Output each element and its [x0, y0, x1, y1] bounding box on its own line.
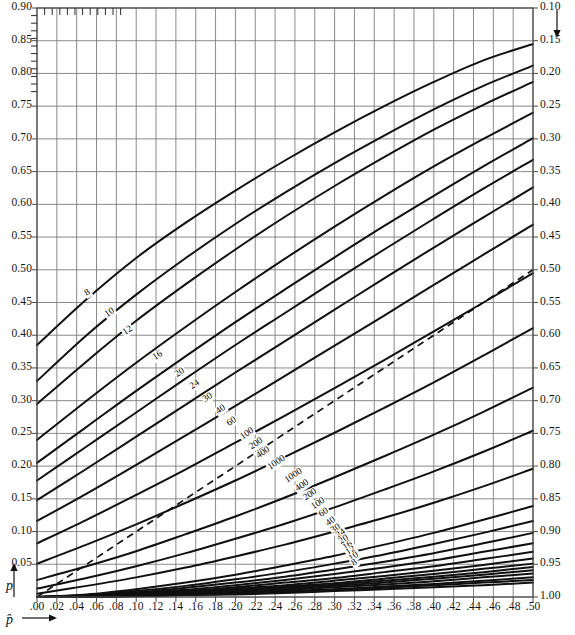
y-tick-left-0.30: 0.30: [0, 393, 32, 405]
y-tick-right-0.45: 0.45: [540, 229, 575, 241]
y-tick-right-0.60: 0.60: [540, 327, 575, 339]
y-tick-left-0.25: 0.25: [0, 425, 32, 437]
curve-20-upper: [37, 138, 533, 463]
y-tick-left-0.60: 0.60: [0, 196, 32, 208]
y-tick-left-0.75: 0.75: [0, 98, 32, 110]
y-tick-left-0.20: 0.20: [0, 458, 32, 470]
y-tick-right-0.30: 0.30: [540, 131, 575, 143]
y-tick-right-0.85: 0.85: [540, 491, 575, 503]
curve-10-upper: [37, 66, 533, 381]
curve-24-upper: [37, 160, 533, 481]
y-tick-right-0.65: 0.65: [540, 360, 575, 372]
y-tick-right-0.75: 0.75: [540, 425, 575, 437]
y-tick-left-0.10: 0.10: [0, 524, 32, 536]
curve-12-upper: [37, 82, 533, 404]
y-tick-left-0.15: 0.15: [0, 491, 32, 503]
y-axis-title: p: [6, 578, 13, 594]
y-tick-left-0.55: 0.55: [0, 229, 32, 241]
confidence-curves: [37, 44, 533, 597]
y-tick-left-0.80: 0.80: [0, 65, 32, 77]
x-tick-.50: .50: [518, 600, 548, 612]
y-tick-right-0.40: 0.40: [540, 196, 575, 208]
plot-area: [0, 0, 575, 635]
binomial-confidence-belt-chart: 0.900.850.800.750.700.650.600.550.500.45…: [0, 0, 575, 635]
y-tick-left-0.85: 0.85: [0, 33, 32, 45]
curve-8-upper: [37, 44, 533, 345]
y-tick-right-0.35: 0.35: [540, 164, 575, 176]
x-axis-title: p̂: [6, 612, 13, 628]
y-tick-right-0.90: 0.90: [540, 524, 575, 536]
y-tick-right-0.10: 0.10: [540, 0, 575, 12]
y-tick-left-0.70: 0.70: [0, 131, 32, 143]
y-tick-left-0.05: 0.05: [0, 556, 32, 568]
y-tick-right-0.25: 0.25: [540, 98, 575, 110]
y-tick-right-0.80: 0.80: [540, 458, 575, 470]
y-tick-left-0.50: 0.50: [0, 262, 32, 274]
y-tick-right-0.50: 0.50: [540, 262, 575, 274]
y-tick-left-0.45: 0.45: [0, 295, 32, 307]
y-tick-right-0.55: 0.55: [540, 295, 575, 307]
curve-100-upper: [37, 328, 533, 564]
y-tick-left-0.90: 0.90: [0, 0, 32, 12]
y-tick-right-0.15: 0.15: [540, 33, 575, 45]
axis-frame: [10, 8, 560, 622]
y-tick-left-0.35: 0.35: [0, 360, 32, 372]
y-tick-right-0.20: 0.20: [540, 65, 575, 77]
y-tick-left-0.40: 0.40: [0, 327, 32, 339]
y-tick-left-0.65: 0.65: [0, 164, 32, 176]
curve-16-upper: [37, 113, 533, 440]
curve-30-upper: [37, 187, 533, 500]
y-tick-right-0.70: 0.70: [540, 393, 575, 405]
y-tick-right-0.95: 0.95: [540, 556, 575, 568]
